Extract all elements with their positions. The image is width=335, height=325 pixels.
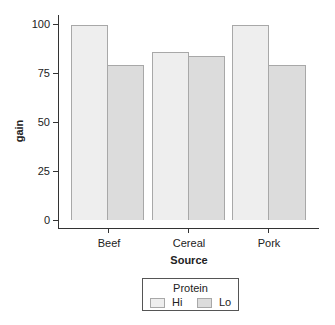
bar-beef-hi: [71, 25, 108, 220]
x-tick: [188, 229, 189, 233]
legend: Protein Hi Lo: [142, 278, 239, 311]
x-tick-label: Pork: [239, 237, 299, 249]
y-tick: [53, 24, 58, 25]
bar-pork-lo: [268, 65, 306, 220]
legend-swatch-lo: [197, 298, 212, 308]
y-tick-label: 0: [20, 214, 50, 226]
legend-label-hi: Hi: [172, 296, 182, 308]
y-tick-label: 75: [20, 67, 50, 79]
x-tick-label: Beef: [79, 237, 139, 249]
bar-cereal-hi: [152, 52, 189, 220]
legend-label-lo: Lo: [219, 296, 231, 308]
x-tick-label: Cereal: [159, 237, 219, 249]
x-tick: [268, 229, 269, 233]
legend-title: Protein: [143, 282, 238, 294]
bar-cereal-lo: [188, 56, 225, 220]
y-tick-label: 100: [20, 18, 50, 30]
bar-pork-hi: [232, 25, 269, 220]
bar-beef-lo: [107, 65, 144, 220]
x-axis-title: Source: [159, 254, 219, 266]
y-tick-label: 25: [20, 165, 50, 177]
y-axis-title: gain: [13, 116, 25, 146]
y-tick: [53, 171, 58, 172]
y-axis-line: [58, 15, 59, 229]
x-tick: [108, 229, 109, 233]
legend-swatch-hi: [150, 298, 165, 308]
y-tick: [53, 220, 58, 221]
y-tick: [53, 73, 58, 74]
chart: 0 25 50 75 100 gain Beef Cereal Pork Sou…: [0, 0, 335, 325]
y-tick: [53, 122, 58, 123]
